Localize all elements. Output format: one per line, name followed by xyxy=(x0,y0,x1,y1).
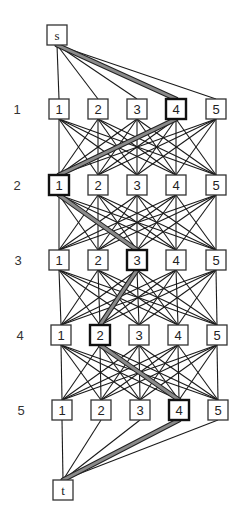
node-label: 2 xyxy=(94,102,101,117)
node-label: 2 xyxy=(94,253,101,268)
node-label: 3 xyxy=(135,328,142,343)
layer-5-node-1: 1 xyxy=(52,400,72,420)
edge-s-to-1-1 xyxy=(57,45,59,99)
node-label: 3 xyxy=(133,102,140,117)
layer-5-node-2: 2 xyxy=(91,400,111,420)
layer-5-node-5: 5 xyxy=(208,400,228,420)
node-label: 3 xyxy=(133,253,140,268)
layered-graph-diagram: s1234512345123451234512345t 12345 xyxy=(0,0,243,523)
layer-label-column: 12345 xyxy=(13,102,24,418)
layer-2-node-3: 3 xyxy=(127,175,147,195)
edge-4-1-to-5-1 xyxy=(61,345,62,400)
node-label: 2 xyxy=(94,178,101,193)
layer-3-node-3: 3 xyxy=(127,250,147,270)
node-label: 5 xyxy=(212,253,219,268)
edge-3-5-to-4-5 xyxy=(216,270,217,325)
edge-5-3-to-t xyxy=(63,420,140,480)
node-label: s xyxy=(54,28,59,43)
edge-5-5-to-t xyxy=(63,420,218,480)
layer-4-node-5: 5 xyxy=(207,325,227,345)
node-label: 1 xyxy=(55,102,62,117)
layer-5-node-3: 3 xyxy=(130,400,150,420)
layer-1-node-2: 2 xyxy=(88,99,108,119)
layer-3-node-5: 5 xyxy=(206,250,226,270)
node-label: 4 xyxy=(172,102,179,117)
node-label: 4 xyxy=(174,328,181,343)
node-label: 1 xyxy=(58,403,65,418)
layer-label-2: 2 xyxy=(13,178,20,193)
layer-1-node-4: 4 xyxy=(166,99,186,119)
layer-2-node-5: 5 xyxy=(206,175,226,195)
edge-5-1-to-t xyxy=(62,420,63,480)
layer-2-node-4: 4 xyxy=(166,175,186,195)
node-label: 5 xyxy=(212,102,219,117)
node-label: 4 xyxy=(175,403,182,418)
layer-label-1: 1 xyxy=(13,102,20,117)
layer-1-node-5: 5 xyxy=(206,99,226,119)
layer-4-node-3: 3 xyxy=(129,325,149,345)
sink-node-t: t xyxy=(53,480,73,500)
layer-1-node-1: 1 xyxy=(49,99,69,119)
highlighted-path-layer xyxy=(57,45,179,480)
node-layer: s1234512345123451234512345t xyxy=(47,25,228,500)
layer-label-4: 4 xyxy=(16,328,23,343)
layer-label-5: 5 xyxy=(17,403,24,418)
layer-3-node-4: 4 xyxy=(166,250,186,270)
node-label: 4 xyxy=(172,253,179,268)
edge-3-3-to-4-1 xyxy=(61,270,137,325)
layer-2-node-2: 2 xyxy=(88,175,108,195)
node-label: 5 xyxy=(214,403,221,418)
node-label: 3 xyxy=(136,403,143,418)
layer-3-node-2: 2 xyxy=(88,250,108,270)
layer-3-node-1: 1 xyxy=(49,250,69,270)
node-label: 1 xyxy=(55,178,62,193)
layer-4-node-1: 1 xyxy=(51,325,71,345)
node-label: 2 xyxy=(96,328,103,343)
layer-2-node-1: 1 xyxy=(49,175,69,195)
edge-4-5-to-5-5 xyxy=(217,345,218,400)
layer-5-node-4: 4 xyxy=(169,400,189,420)
node-label: 2 xyxy=(97,403,104,418)
edge-4-2-to-5-1 xyxy=(62,345,100,400)
node-label: 4 xyxy=(172,178,179,193)
layer-4-node-4: 4 xyxy=(168,325,188,345)
node-label: 1 xyxy=(57,328,64,343)
layer-label-3: 3 xyxy=(14,253,21,268)
edge-4-5-to-5-4 xyxy=(179,345,217,400)
edge-3-1-to-4-1 xyxy=(59,270,61,325)
node-label: 3 xyxy=(133,178,140,193)
node-label: t xyxy=(61,483,65,498)
source-node-s: s xyxy=(47,25,67,45)
node-label: 5 xyxy=(212,178,219,193)
highlighted-edge xyxy=(63,420,179,480)
node-label: 5 xyxy=(213,328,220,343)
layer-4-node-2: 2 xyxy=(90,325,110,345)
node-label: 1 xyxy=(55,253,62,268)
layer-1-node-3: 3 xyxy=(127,99,147,119)
highlighted-edge xyxy=(57,45,176,99)
